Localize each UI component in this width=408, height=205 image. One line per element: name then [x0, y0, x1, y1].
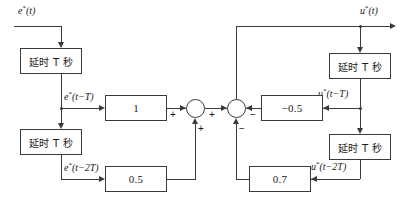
signal-label-input-delayed-2: e*(t−2T)	[64, 161, 99, 173]
block-delay-output-2: 延时 T 秒	[329, 134, 391, 160]
wire-to-delay-in-2	[61, 108, 62, 124]
arrowhead-into-gain-neg05	[323, 105, 329, 111]
block-gain-neg05-label: −0.5	[282, 102, 303, 114]
arrowhead-output	[390, 23, 396, 29]
arrowhead-into-sum-1-left	[180, 105, 186, 111]
signal-label-output-delayed-2: u*(t−2T)	[311, 160, 346, 172]
wire-input-vertical	[61, 26, 62, 43]
sign-sum-1-bottom: +	[198, 124, 204, 134]
block-gain-1-label: 1	[133, 102, 139, 114]
signal-label-output: u*(t)	[360, 4, 378, 16]
summing-junction-1	[186, 99, 205, 118]
signal-label-input-delayed-1: e*(t−T)	[64, 90, 94, 102]
wire-delay-out-2-down	[360, 160, 361, 179]
block-delay-output-1-label: 延时 T 秒	[338, 59, 382, 74]
block-gain-05: 0.5	[105, 166, 167, 192]
arrowhead-into-sum-2-left	[221, 105, 227, 111]
wire-delay-out-1-down	[360, 79, 361, 108]
wire-sum-2-output-up	[236, 26, 237, 99]
block-delay-input-2: 延时 T 秒	[20, 129, 82, 155]
wire-input-horizontal	[14, 26, 62, 27]
sign-sum-2-right: −	[250, 110, 256, 120]
wire-output-tap-down	[360, 26, 361, 48]
wire-top-rail	[236, 26, 391, 27]
block-delay-output-2-label: 延时 T 秒	[338, 140, 382, 155]
wire-gain-05-right	[167, 179, 196, 180]
block-diagram-canvas: e*(t) 延时 T 秒 e*(t−T) 延时 T 秒 e*(t−2T) 1 0…	[0, 0, 408, 205]
block-delay-output-1: 延时 T 秒	[329, 53, 391, 79]
wire-to-gain-05	[61, 179, 100, 180]
wire-to-gain-1	[61, 108, 100, 109]
block-gain-05-label: 0.5	[129, 173, 143, 185]
block-delay-input-1: 延时 T 秒	[20, 48, 82, 74]
wire-to-delay-out-2	[360, 108, 361, 129]
block-delay-input-2-label: 延时 T 秒	[29, 135, 73, 150]
sign-sum-2-bottom: −	[239, 124, 245, 134]
arrowhead-into-gain-07	[311, 176, 317, 182]
wire-delay-in-2-out	[61, 155, 62, 179]
summing-junction-2	[227, 99, 246, 118]
block-gain-1: 1	[105, 95, 167, 121]
signal-label-input: e*(t)	[18, 4, 35, 16]
wire-gain-07-left	[236, 179, 249, 180]
block-delay-input-1-label: 延时 T 秒	[29, 54, 73, 69]
wire-delay-in-1-out	[61, 74, 62, 108]
block-gain-07-label: 0.7	[273, 173, 287, 185]
wire-to-gain-07	[311, 179, 360, 180]
wire-gain-05-up	[195, 124, 196, 180]
block-gain-neg05: −0.5	[261, 95, 323, 121]
block-gain-07: 0.7	[249, 166, 311, 192]
sign-sum-2-left: +	[209, 110, 215, 120]
sign-sum-1-left: +	[170, 110, 176, 120]
wire-gain-07-up	[236, 124, 237, 180]
